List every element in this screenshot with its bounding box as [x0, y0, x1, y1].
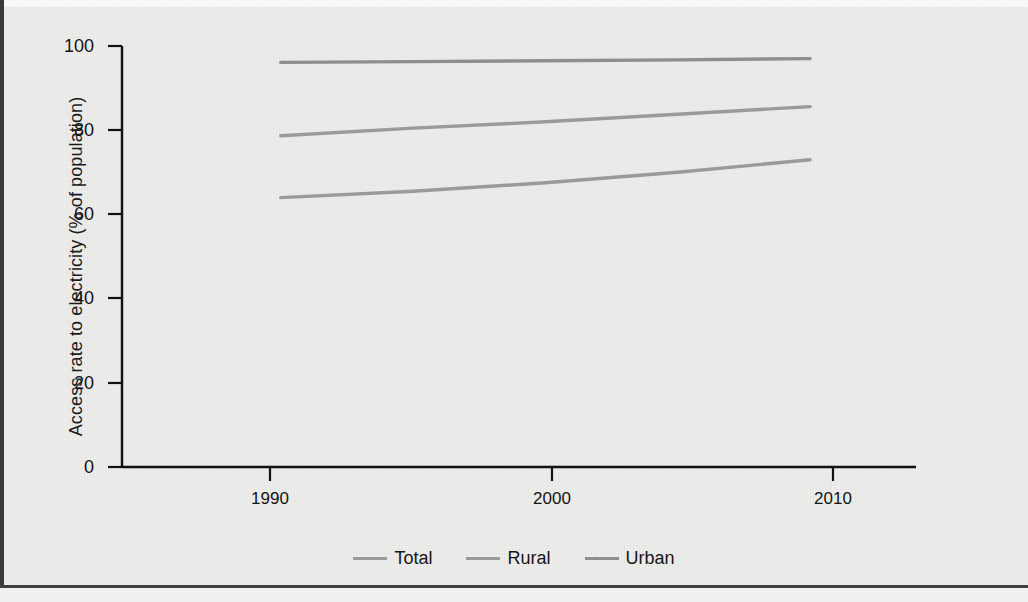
series-line-rural [281, 107, 810, 136]
legend-label-urban: Urban [626, 548, 675, 569]
y-tick-label-40: 40 [48, 288, 94, 309]
x-tick-label-2010: 2010 [798, 489, 868, 509]
x-tick-label-2000: 2000 [517, 489, 587, 509]
y-axis-ticks [108, 46, 122, 467]
y-tick-label-100: 100 [48, 36, 94, 57]
y-tick-label-20: 20 [48, 373, 94, 394]
legend-item-rural[interactable]: Rural [466, 548, 550, 569]
series-line-total [281, 160, 810, 198]
line-swatch-icon [353, 557, 387, 560]
chart-legend: Total Rural Urban [0, 548, 1028, 569]
y-tick-label-60: 60 [48, 204, 94, 225]
y-tick-label-0: 0 [48, 457, 94, 478]
page-below-band [0, 588, 1028, 602]
y-tick-label-80: 80 [48, 120, 94, 141]
legend-label-rural: Rural [507, 548, 550, 569]
legend-label-total: Total [394, 548, 432, 569]
series-line-urban [281, 59, 810, 63]
x-tick-label-1990: 1990 [235, 489, 305, 509]
legend-item-urban[interactable]: Urban [585, 548, 675, 569]
legend-item-total[interactable]: Total [353, 548, 432, 569]
line-chart [0, 0, 1028, 602]
line-swatch-icon [585, 557, 619, 560]
x-axis-ticks [270, 467, 833, 481]
figure-page: Access rate to electricity (% of populat… [0, 0, 1028, 602]
line-swatch-icon [466, 557, 500, 560]
